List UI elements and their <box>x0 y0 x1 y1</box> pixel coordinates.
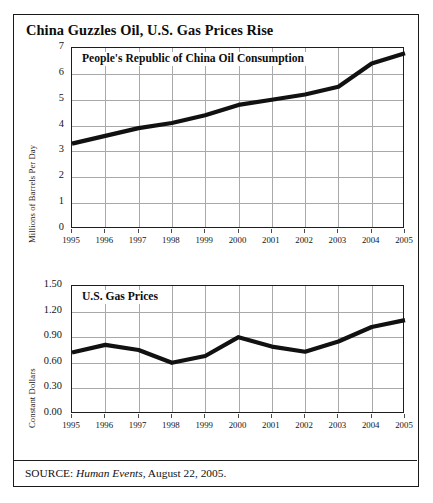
x-axis-tick-mark <box>337 229 338 233</box>
x-axis-tick-mark <box>104 229 105 233</box>
x-axis-tick-label: 1999 <box>187 235 221 245</box>
x-axis-tick-label: 2000 <box>221 235 255 245</box>
x-axis-tick-label: 1997 <box>121 420 155 430</box>
y-axis-tick-label: 1.20 <box>28 304 62 315</box>
x-axis-tick-mark <box>271 414 272 418</box>
x-axis-tick-label: 2003 <box>320 420 354 430</box>
y-axis-tick-label: 5 <box>42 92 64 103</box>
x-axis-tick-mark <box>304 414 305 418</box>
x-axis-tick-label: 1999 <box>187 420 221 430</box>
x-axis-tick-mark <box>404 229 405 233</box>
x-axis-tick-label: 2001 <box>254 420 288 430</box>
x-axis-tick-label: 2001 <box>254 235 288 245</box>
x-axis-tick-label: 2000 <box>221 420 255 430</box>
x-axis-tick-mark <box>238 414 239 418</box>
source-prefix: SOURCE: <box>25 467 73 479</box>
y-axis-tick-label: 0.00 <box>28 406 62 417</box>
figure-frame: China Guzzles Oil, U.S. Gas Prices Rise … <box>13 14 419 487</box>
x-axis-tick-mark <box>404 414 405 418</box>
x-axis-tick-label: 2005 <box>387 235 421 245</box>
source-publication: Human Events <box>76 467 143 479</box>
axis-label-y-oil: Millions of Barrels Per Day <box>27 145 37 243</box>
x-axis-tick-label: 1997 <box>121 235 155 245</box>
data-series-line <box>72 320 405 363</box>
axis-label-y-gas: Constant Dollars <box>27 368 37 428</box>
x-axis-tick-mark <box>371 229 372 233</box>
y-axis-tick-label: 0.30 <box>28 380 62 391</box>
source-rest: , August 22, 2005. <box>143 467 227 479</box>
x-axis-tick-mark <box>337 414 338 418</box>
y-axis-tick-label: 6 <box>42 66 64 77</box>
source-note: SOURCE: Human Events, August 22, 2005. <box>25 467 226 479</box>
source-divider <box>14 460 417 461</box>
chart-oil-consumption: Millions of Barrels Per Day People's Rep… <box>14 47 417 277</box>
x-axis-tick-label: 2002 <box>287 420 321 430</box>
x-axis-tick-label: 1995 <box>54 235 88 245</box>
x-axis-tick-label: 1995 <box>54 420 88 430</box>
chart-gas-prices: Constant Dollars U.S. Gas Prices 0.000.3… <box>14 285 417 460</box>
figure-title: China Guzzles Oil, U.S. Gas Prices Rise <box>26 22 406 39</box>
plot-area-oil: People's Republic of China Oil Consumpti… <box>71 47 404 228</box>
x-axis-tick-label: 2002 <box>287 235 321 245</box>
plot-caption-gas: U.S. Gas Prices <box>81 290 161 304</box>
x-axis-tick-mark <box>238 229 239 233</box>
x-axis-tick-mark <box>71 229 72 233</box>
x-axis-tick-label: 2003 <box>320 235 354 245</box>
plot-area-gas: U.S. Gas Prices <box>71 285 404 413</box>
x-axis-tick-label: 2005 <box>387 420 421 430</box>
x-axis-tick-mark <box>138 414 139 418</box>
x-axis-tick-mark <box>204 229 205 233</box>
series-line-oil <box>72 48 405 229</box>
x-axis-tick-mark <box>204 414 205 418</box>
y-axis-tick-label: 2 <box>42 169 64 180</box>
y-axis-tick-label: 1.50 <box>28 278 62 289</box>
series-line-gas <box>72 286 405 414</box>
y-axis-tick-label: 0.60 <box>28 355 62 366</box>
x-axis-tick-mark <box>304 229 305 233</box>
x-axis-tick-label: 1996 <box>87 420 121 430</box>
y-axis-tick-label: 1 <box>42 195 64 206</box>
x-axis-tick-mark <box>271 229 272 233</box>
y-axis-tick-label: 0 <box>42 221 64 232</box>
x-axis-tick-mark <box>171 229 172 233</box>
x-axis-tick-label: 1998 <box>154 420 188 430</box>
x-axis-tick-mark <box>171 414 172 418</box>
x-axis-tick-label: 2004 <box>354 420 388 430</box>
x-axis-tick-label: 1998 <box>154 235 188 245</box>
data-series-line <box>72 53 405 144</box>
y-axis-tick-label: 7 <box>42 40 64 51</box>
x-axis-tick-mark <box>104 414 105 418</box>
y-axis-tick-label: 4 <box>42 118 64 129</box>
x-axis-tick-label: 1996 <box>87 235 121 245</box>
x-axis-tick-mark <box>71 414 72 418</box>
x-axis-tick-mark <box>138 229 139 233</box>
plot-caption-oil: People's Republic of China Oil Consumpti… <box>81 52 307 66</box>
y-axis-tick-label: 0.90 <box>28 329 62 340</box>
y-axis-tick-label: 3 <box>42 143 64 154</box>
x-axis-tick-label: 2004 <box>354 235 388 245</box>
x-axis-tick-mark <box>371 414 372 418</box>
